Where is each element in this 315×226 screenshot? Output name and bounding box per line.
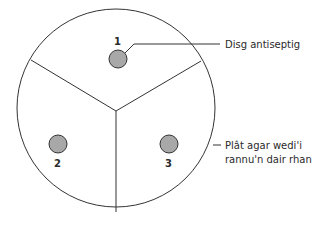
antiseptic-disc-1 (109, 50, 127, 68)
antiseptic-disc-3 (160, 135, 178, 153)
disc-label-1: 1 (114, 36, 121, 47)
disc-callout-label: Disg antiseptig (225, 39, 300, 50)
plate-callout-label-line2: rannu'n dair rhan (225, 154, 312, 165)
disc-label-3: 3 (165, 158, 172, 169)
agar-plate-diagram: 1 2 3 Disg antiseptig Plât agar wedi'i r… (0, 0, 315, 226)
plate-callout-label-line1: Plât agar wedi'i (225, 140, 302, 151)
disc-callout-line (125, 44, 220, 53)
antiseptic-disc-2 (49, 135, 67, 153)
disc-label-2: 2 (54, 158, 61, 169)
